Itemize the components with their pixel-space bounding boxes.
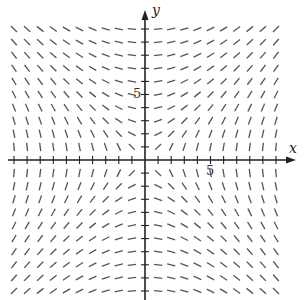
slope-segment bbox=[79, 143, 81, 151]
slope-segment bbox=[115, 93, 123, 96]
slope-segment bbox=[24, 39, 30, 45]
slope-segment bbox=[262, 143, 263, 151]
slope-segment bbox=[128, 184, 136, 188]
slope-segment bbox=[25, 222, 29, 229]
slope-segment bbox=[182, 183, 187, 190]
slope-segment bbox=[102, 250, 110, 253]
slope-segment bbox=[196, 182, 200, 190]
slope-segment bbox=[235, 104, 239, 111]
slope-segment bbox=[37, 249, 43, 255]
slope-segment bbox=[51, 78, 56, 84]
slope-segment bbox=[207, 289, 215, 293]
slope-segment bbox=[182, 130, 187, 137]
slope-segment bbox=[248, 91, 252, 98]
slope-segment bbox=[77, 92, 83, 98]
slope-segment bbox=[274, 104, 277, 112]
slope-segment bbox=[154, 291, 162, 292]
slope-segment bbox=[220, 27, 227, 31]
slope-segment bbox=[102, 105, 109, 110]
slope-segment bbox=[154, 211, 162, 213]
slope-segment bbox=[91, 130, 95, 138]
slope-segment bbox=[52, 130, 54, 138]
slope-segment bbox=[115, 41, 123, 43]
slope-segment bbox=[128, 119, 136, 122]
slope-segment bbox=[275, 117, 277, 125]
slope-segment bbox=[76, 249, 83, 254]
slope-segment bbox=[26, 182, 28, 190]
slope-segment bbox=[196, 169, 198, 177]
slope-segment bbox=[223, 169, 224, 177]
slope-segment bbox=[274, 78, 278, 85]
slope-segment bbox=[181, 80, 189, 84]
slope-segment bbox=[167, 93, 175, 96]
slope-segment bbox=[180, 54, 188, 57]
slope-segment bbox=[24, 288, 30, 294]
slope-segment bbox=[275, 130, 277, 138]
slope-segment bbox=[90, 209, 96, 215]
slope-segment bbox=[169, 169, 173, 177]
slope-segment bbox=[154, 198, 162, 201]
slope-segment bbox=[249, 130, 251, 138]
slope-segment bbox=[128, 251, 136, 252]
slope-segment bbox=[208, 92, 214, 98]
slope-segment bbox=[92, 169, 94, 177]
slope-field bbox=[0, 0, 305, 300]
slope-segment bbox=[247, 235, 252, 242]
slope-segment bbox=[181, 92, 188, 96]
slope-segment bbox=[38, 78, 43, 85]
slope-segment bbox=[38, 235, 43, 242]
slope-segment bbox=[26, 130, 28, 138]
slope-segment bbox=[208, 117, 212, 124]
slope-segment bbox=[194, 27, 202, 30]
slope-segment bbox=[154, 184, 162, 188]
slope-segment bbox=[63, 78, 69, 84]
slope-segment bbox=[221, 78, 227, 84]
slope-segment bbox=[208, 209, 213, 216]
slope-segment bbox=[51, 235, 56, 241]
slope-segment bbox=[102, 223, 109, 227]
slope-segment bbox=[220, 262, 227, 267]
slope-segment bbox=[221, 209, 226, 216]
slope-segment bbox=[180, 290, 188, 292]
slope-segment bbox=[13, 195, 15, 203]
slope-segment bbox=[181, 237, 189, 241]
slope-segment bbox=[248, 195, 251, 203]
slope-segment bbox=[220, 289, 227, 293]
slope-segment bbox=[128, 68, 136, 69]
slope-segment bbox=[89, 263, 97, 267]
slope-segment bbox=[37, 65, 43, 71]
slope-segment bbox=[37, 275, 43, 281]
slope-segment bbox=[167, 290, 175, 292]
slope-segment bbox=[14, 169, 15, 177]
slope-segment bbox=[260, 262, 266, 268]
slope-segment bbox=[102, 80, 110, 84]
slope-segment bbox=[51, 222, 56, 229]
slope-segment bbox=[181, 196, 187, 202]
slope-segment bbox=[65, 196, 69, 204]
slope-segment bbox=[115, 251, 123, 253]
slope-segment bbox=[234, 78, 239, 84]
slope-segment bbox=[168, 118, 175, 123]
slope-segment bbox=[25, 104, 28, 112]
slope-segment bbox=[207, 27, 215, 31]
slope-segment bbox=[115, 28, 123, 30]
slope-segment bbox=[11, 39, 17, 45]
slope-segment bbox=[117, 169, 121, 177]
slope-segment bbox=[233, 289, 240, 294]
slope-segment bbox=[194, 79, 201, 84]
slope-segment bbox=[196, 130, 200, 138]
slope-segment bbox=[234, 235, 239, 241]
slope-segment bbox=[66, 169, 67, 177]
slope-segment bbox=[235, 195, 238, 203]
slope-segment bbox=[168, 183, 174, 189]
slope-segment bbox=[24, 262, 30, 268]
slope-segment bbox=[50, 40, 57, 45]
slope-segment bbox=[180, 41, 188, 44]
slope-segment bbox=[181, 118, 187, 124]
slope-segment bbox=[115, 237, 123, 240]
slope-segment bbox=[220, 53, 227, 58]
slope-segment bbox=[37, 39, 43, 45]
slope-segment bbox=[167, 80, 175, 83]
slope-segment bbox=[207, 249, 214, 254]
slope-segment bbox=[38, 209, 42, 217]
